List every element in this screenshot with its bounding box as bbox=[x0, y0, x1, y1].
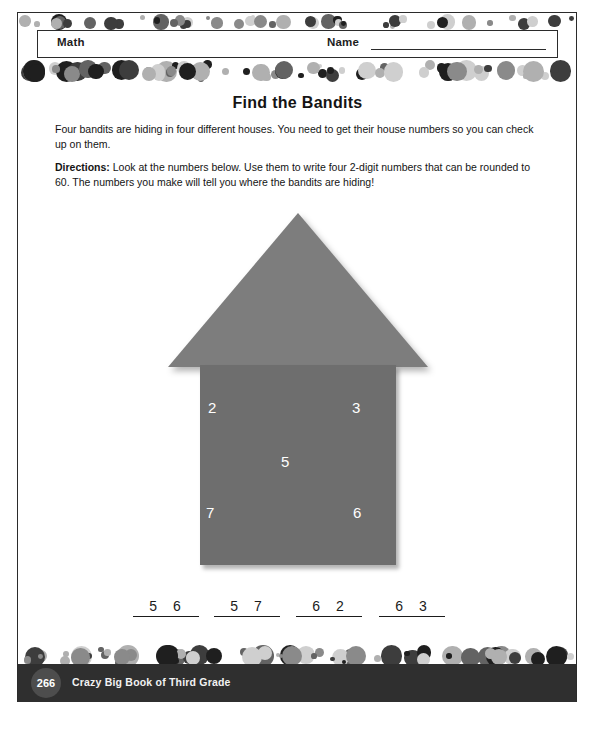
directions-paragraph: Directions: Look at the numbers below. U… bbox=[55, 160, 542, 190]
name-label: Name bbox=[327, 36, 359, 48]
answer-value-2: 5 7 bbox=[214, 598, 280, 614]
answer-value-4: 6 3 bbox=[379, 598, 445, 614]
house-number-5: 6 bbox=[353, 504, 361, 521]
dot-band-middle-decoration bbox=[19, 60, 575, 82]
answer-blank-3[interactable]: 6 2 bbox=[296, 598, 362, 617]
house-number-3: 5 bbox=[281, 453, 289, 470]
dot-band-top-decoration bbox=[19, 14, 575, 30]
page-title: Find the Bandits bbox=[0, 94, 595, 112]
answer-blank-1[interactable]: 5 6 bbox=[133, 598, 199, 617]
worksheet-page: Math Name Find the Bandits Four bandits … bbox=[0, 0, 595, 748]
answer-blank-4[interactable]: 6 3 bbox=[379, 598, 445, 617]
name-blank-rule bbox=[371, 49, 546, 50]
answer-blank-2[interactable]: 5 7 bbox=[214, 598, 280, 617]
house-number-4: 7 bbox=[206, 504, 214, 521]
directions-label: Directions: bbox=[55, 161, 110, 173]
answer-rule-4 bbox=[379, 616, 445, 617]
house-number-2: 3 bbox=[352, 399, 360, 416]
house-roof-shape bbox=[168, 213, 428, 367]
subject-label: Math bbox=[57, 36, 85, 48]
house-body-shape bbox=[200, 365, 396, 565]
answer-rule-1 bbox=[133, 616, 199, 617]
directions-text: Look at the numbers below. Use them to w… bbox=[55, 161, 530, 188]
page-number-badge: 266 bbox=[31, 668, 61, 698]
header-field-box bbox=[37, 30, 558, 58]
answer-value-3: 6 2 bbox=[296, 598, 362, 614]
answer-rule-2 bbox=[214, 616, 280, 617]
house-number-1: 2 bbox=[208, 399, 216, 416]
answer-row: 5 6 5 7 6 2 6 3 bbox=[0, 598, 595, 632]
footer-book-title: Crazy Big Book of Third Grade bbox=[72, 676, 231, 688]
answer-value-1: 5 6 bbox=[133, 598, 199, 614]
intro-paragraph: Four bandits are hiding in four differen… bbox=[55, 122, 535, 152]
house-illustration: 2 3 5 7 6 bbox=[168, 213, 428, 568]
answer-rule-3 bbox=[296, 616, 362, 617]
